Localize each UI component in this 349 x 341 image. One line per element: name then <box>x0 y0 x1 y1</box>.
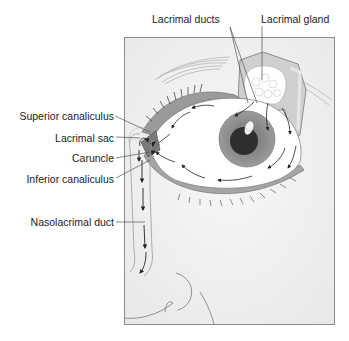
label-lacrimal-ducts: Lacrimal ducts <box>152 13 220 25</box>
label-superior-canaliculus: Superior canaliculus <box>19 110 114 122</box>
label-nasolacrimal-duct: Nasolacrimal duct <box>31 216 114 228</box>
label-caruncle: Caruncle <box>72 152 114 164</box>
lacrimal-diagram <box>0 0 349 341</box>
pupil <box>230 127 258 155</box>
label-lacrimal-sac: Lacrimal sac <box>55 132 114 144</box>
label-inferior-canaliculus: Inferior canaliculus <box>26 173 114 185</box>
label-lacrimal-gland: Lacrimal gland <box>261 13 329 25</box>
